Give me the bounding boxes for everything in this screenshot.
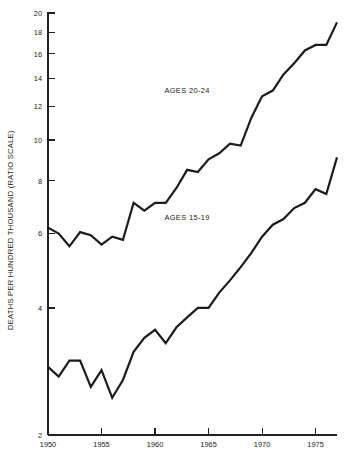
y-tick-group: 2018161412108642: [34, 9, 55, 440]
y-tick-label: 6: [38, 229, 42, 238]
x-tick-label: 1970: [254, 440, 270, 449]
y-tick-label: 12: [34, 102, 42, 111]
x-tick-label: 1960: [147, 440, 163, 449]
y-axis-title: DEATHS PER HUNDRED THOUSAND (RATIO SCALE…: [6, 130, 15, 330]
y-tick-label: 14: [34, 74, 42, 83]
y-tick-label: 20: [34, 9, 42, 18]
x-tick-label: 1975: [307, 440, 323, 449]
series-annotation-ages-15-19: AGES 15-19: [164, 213, 210, 222]
y-tick-label: 4: [38, 304, 42, 313]
y-tick-label: 16: [34, 50, 42, 59]
y-axis-group: 2018161412108642: [34, 9, 55, 440]
series-label-group: AGES 20-24AGES 15-19: [164, 86, 210, 222]
x-tick-group: 195019551960196519701975: [40, 428, 324, 449]
series-line-ages-15-19: [48, 157, 337, 397]
mortality-line-chart: 2018161412108642 19501955196019651970197…: [0, 0, 351, 461]
x-axis-group: 195019551960196519701975: [40, 428, 337, 449]
series-annotation-ages-20-24: AGES 20-24: [164, 86, 210, 95]
y-tick-label: 8: [38, 177, 42, 186]
chart-canvas: 2018161412108642 19501955196019651970197…: [0, 0, 351, 461]
x-tick-label: 1950: [40, 440, 56, 449]
y-tick-label: 18: [34, 28, 42, 37]
series-group: [48, 22, 337, 397]
x-tick-label: 1955: [93, 440, 109, 449]
y-tick-label: 2: [38, 431, 42, 440]
y-tick-label: 10: [34, 136, 42, 145]
x-tick-label: 1965: [200, 440, 216, 449]
